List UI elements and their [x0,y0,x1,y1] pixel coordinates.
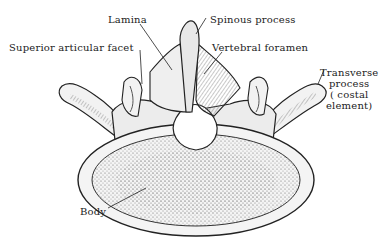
right-superior-articular-facet [248,77,268,115]
label-superior-articular-facet: Superior articular facet [9,42,134,53]
leader-lamina [140,24,172,70]
label-transverse-process: Transverse process ( costal element) [320,67,378,111]
label-body: Body [80,206,106,217]
label-transverse-line-1: Transverse [320,67,378,78]
leader-superior-articular-facet [140,50,142,84]
label-vertebral-foramen: Vertebral foramen [212,42,308,53]
label-transverse-line-2: process [320,78,378,89]
label-transverse-line-4: element) [320,100,378,111]
leader-spinous-process [196,18,206,34]
label-lamina: Lamina [108,14,147,25]
label-spinous-process: Spinous process [210,14,296,25]
label-transverse-line-3: ( costal [320,89,378,100]
vertebra-illustration [0,0,390,242]
